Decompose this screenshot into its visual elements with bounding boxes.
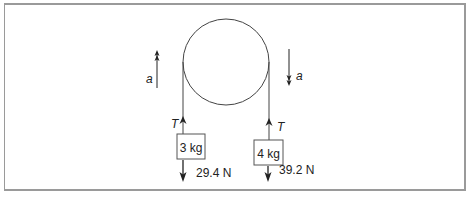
left-tension-label: T <box>171 117 180 131</box>
pulley-wheel <box>183 19 269 105</box>
right-mass-label: 4 kg <box>257 147 280 161</box>
right-acceleration-label: a <box>296 69 303 83</box>
left-acceleration-arrow-icon <box>155 50 160 61</box>
right-weight-label: 39.2 N <box>279 163 314 177</box>
right-acceleration-arrow-icon <box>287 75 292 86</box>
left-weight-label: 29.4 N <box>196 166 231 180</box>
atwood-machine-diagram: 3 kg 4 kg T T 29.4 N 39.2 N a a <box>0 0 474 199</box>
right-tension-label: T <box>277 120 286 134</box>
left-mass-label: 3 kg <box>180 141 203 155</box>
left-acceleration-label: a <box>146 72 153 86</box>
